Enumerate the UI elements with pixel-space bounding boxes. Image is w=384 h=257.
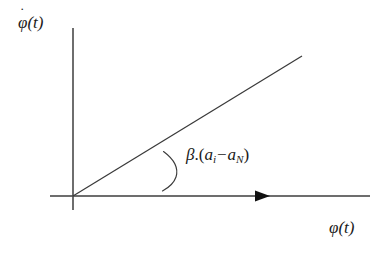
- subscript-N: N: [236, 153, 243, 165]
- y-axis-label: ˙ φ (t): [18, 14, 43, 31]
- close-paren: ): [244, 145, 250, 164]
- x-axis-arrowhead: [255, 191, 270, 202]
- phi-dot-symbol: ˙ φ: [18, 14, 27, 31]
- overdot-icon: ˙: [20, 6, 25, 21]
- figure-canvas: [0, 0, 384, 257]
- phi-glyph: φ: [329, 218, 338, 237]
- a-second-symbol: a: [228, 145, 237, 164]
- annotation-arc-icon: [163, 152, 177, 192]
- y-label-argument: (t): [27, 13, 43, 32]
- slope-annotation: β.(ai−aN): [186, 146, 249, 165]
- slope-line: [73, 56, 302, 196]
- minus-operator: −: [216, 145, 228, 164]
- x-label-argument: (t): [338, 218, 354, 237]
- x-axis-label: φ(t): [329, 219, 354, 236]
- a-first-symbol: a: [204, 145, 213, 164]
- phase-plane-figure: ˙ φ (t) φ(t) β.(ai−aN): [0, 0, 384, 257]
